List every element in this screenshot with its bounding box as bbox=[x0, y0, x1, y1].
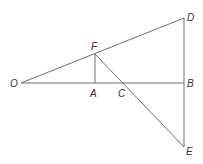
segment-OD bbox=[21, 18, 184, 83]
geometry-diagram: O F A C B D E bbox=[0, 0, 203, 164]
label-B: B bbox=[187, 78, 194, 89]
label-O: O bbox=[10, 78, 18, 89]
label-F: F bbox=[91, 41, 98, 52]
label-D: D bbox=[187, 12, 194, 23]
label-C: C bbox=[118, 88, 126, 99]
label-E: E bbox=[186, 146, 193, 157]
label-A: A bbox=[89, 88, 97, 99]
segment-FE bbox=[95, 54, 184, 147]
